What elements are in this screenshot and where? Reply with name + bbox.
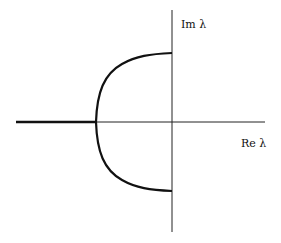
real-axis-label: Re λ — [241, 137, 266, 150]
upper-branch-curve — [96, 53, 172, 122]
lower-branch-curve — [96, 122, 172, 191]
root-locus-plot — [0, 0, 281, 243]
imaginary-axis-label: Im λ — [181, 18, 206, 31]
